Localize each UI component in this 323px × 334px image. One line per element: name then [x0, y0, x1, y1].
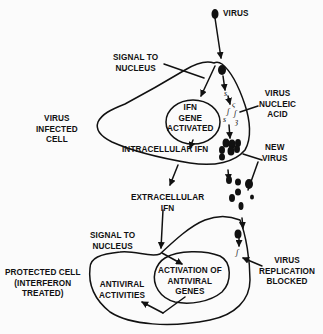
label-signal-to-nucleus-bottom: SIGNAL TO NUCLEUS: [90, 231, 135, 252]
label-virus-nucleic-acid: VIRUS NUCLEIC ACID: [259, 89, 296, 121]
interferon-diagram: s ς ʃ ʃ s ȝ ʃ VIRUS: [0, 0, 323, 334]
label-activation-antiviral-genes: ACTIVATION OF ANTIVIRAL GENES: [158, 266, 222, 298]
label-virus-infected-cell: VIRUS INFECTED CELL: [36, 114, 78, 146]
svg-text:ʃ: ʃ: [235, 248, 240, 257]
label-intracellular-ifn: INTRACELLULAR IFN: [122, 145, 208, 156]
label-protected-cell: PROTECTED CELL (INTERFERON TREATED): [5, 268, 81, 300]
label-virus-top: VIRUS: [223, 9, 249, 20]
virus-particles: [212, 9, 255, 239]
label-new-virus: NEW VIRUS: [262, 143, 288, 164]
svg-text:ʃ: ʃ: [226, 107, 231, 116]
label-virus-replication-blocked: VIRUS REPLICATION BLOCKED: [259, 256, 315, 288]
svg-text:s: s: [223, 115, 226, 124]
svg-text:ȝ: ȝ: [234, 117, 238, 126]
svg-text:s: s: [224, 89, 227, 98]
label-extracellular-ifn: EXTRACELLULAR IFN: [131, 193, 204, 214]
label-ifn-gene-activated: IFN GENE ACTIVATED: [167, 103, 214, 135]
label-signal-to-nucleus-top: SIGNAL TO NUCLEUS: [113, 53, 158, 74]
label-antiviral-activities: ANTIVIRAL ACTIVITIES: [99, 280, 145, 301]
svg-text:ς: ς: [232, 100, 236, 109]
